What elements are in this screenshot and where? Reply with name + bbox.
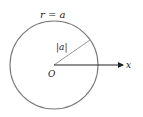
polar-circle-diagram: r = a |a| O x <box>0 0 143 117</box>
x-axis-label: x <box>126 60 131 70</box>
circle-equation-label: r = a <box>40 9 66 20</box>
radius-magnitude-label: |a| <box>56 42 67 53</box>
origin-label: O <box>48 69 56 79</box>
